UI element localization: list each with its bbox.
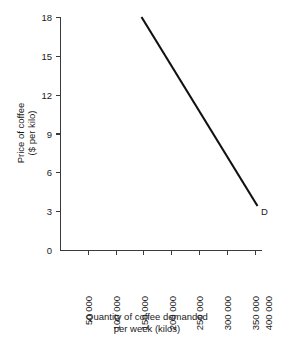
chart-canvas: 18 15 12 9 6 3 0 50 000 100 000 150 000 …	[0, 0, 291, 345]
x-tick-label-400000: 400 000	[263, 296, 274, 330]
x-axis-title-line2: per week (kilos)	[114, 323, 181, 334]
y-axis-tick-labels: 18 15 12 9 6 3 0	[41, 12, 52, 256]
y-tick-label-3: 3	[47, 206, 52, 217]
y-tick-label-15: 15	[41, 51, 52, 62]
x-tick-label-350000: 350 000	[250, 296, 261, 330]
demand-curve-label: D	[261, 206, 268, 217]
x-axis-title-line1: Quantity of coffee demanded	[86, 311, 208, 322]
y-tick-label-18: 18	[41, 12, 52, 23]
y-axis-ticks	[56, 18, 61, 212]
y-tick-label-0: 0	[47, 245, 52, 256]
y-tick-label-9: 9	[47, 129, 52, 140]
y-axis-title: Price of coffee ($ per kilo)	[15, 103, 37, 164]
y-tick-label-12: 12	[41, 90, 52, 101]
demand-curve-line	[142, 17, 258, 206]
x-axis-ticks	[88, 251, 255, 256]
y-axis-title-line2: ($ per kilo)	[26, 111, 37, 156]
x-tick-label-300000: 300 000	[222, 296, 233, 330]
y-axis-title-line1: Price of coffee	[15, 103, 26, 164]
y-tick-label-6: 6	[47, 167, 52, 178]
demand-curve-chart: 18 15 12 9 6 3 0 50 000 100 000 150 000 …	[0, 0, 291, 345]
x-axis-title: Quantity of coffee demanded per week (ki…	[86, 311, 208, 334]
